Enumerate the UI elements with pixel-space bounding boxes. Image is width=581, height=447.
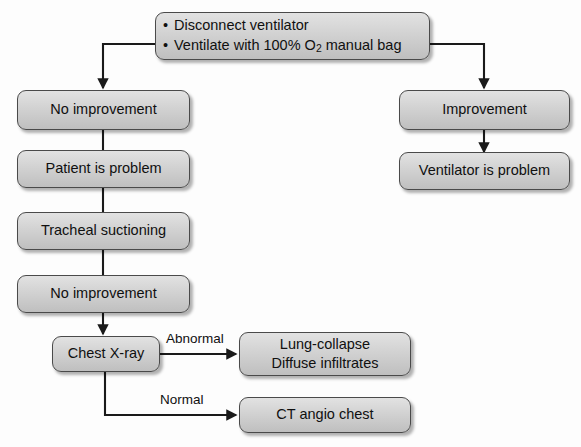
lung-collapse-line-2: Diffuse infiltrates: [272, 354, 379, 373]
improvement-node[interactable]: Improvement: [399, 90, 570, 130]
ventilator-is-problem-node[interactable]: Ventilator is problem: [399, 152, 570, 190]
lung-collapse-line-1: Lung-collapse: [272, 335, 379, 354]
flowchart-canvas: Disconnect ventilator Ventilate with 100…: [0, 0, 581, 447]
edge-start-to-no-improvement-1: [103, 44, 155, 88]
bullet-ventilate-100-o2-manual-bag: Ventilate with 100% O2 manual bag: [174, 36, 402, 56]
ventilator-is-problem-label: Ventilator is problem: [419, 161, 550, 180]
tracheal-suctioning-label: Tracheal suctioning: [41, 221, 166, 240]
patient-is-problem-node[interactable]: Patient is problem: [17, 150, 190, 188]
edge-label-normal: Normal: [160, 392, 204, 407]
ct-angio-chest-node[interactable]: CT angio chest: [239, 397, 411, 433]
patient-is-problem-label: Patient is problem: [45, 159, 161, 178]
no-improvement-label-2: No improvement: [50, 284, 156, 303]
disconnect-ventilate-text: Disconnect ventilator Ventilate with 100…: [156, 16, 410, 55]
ct-angio-chest-label: CT angio chest: [276, 405, 373, 424]
lung-collapse-text: Lung-collapse Diffuse infiltrates: [264, 335, 387, 373]
bullet-ventilate-pre: Ventilate with 100% O: [174, 37, 316, 53]
bullet-disconnect-ventilator: Disconnect ventilator: [174, 16, 402, 35]
edge-start-to-improvement: [430, 44, 484, 88]
disconnect-ventilate-node[interactable]: Disconnect ventilator Ventilate with 100…: [155, 12, 430, 60]
lung-collapse-diffuse-infiltrates-node[interactable]: Lung-collapse Diffuse infiltrates: [239, 332, 411, 376]
no-improvement-node-2[interactable]: No improvement: [17, 275, 190, 313]
no-improvement-node-1[interactable]: No improvement: [17, 90, 190, 130]
bullet-ventilate-post: manual bag: [322, 37, 402, 53]
no-improvement-label-1: No improvement: [50, 100, 156, 119]
improvement-label: Improvement: [442, 100, 527, 119]
chest-xray-node[interactable]: Chest X-ray: [52, 336, 160, 372]
tracheal-suctioning-node[interactable]: Tracheal suctioning: [17, 212, 190, 250]
edge-label-abnormal: Abnormal: [166, 331, 224, 346]
chest-xray-label: Chest X-ray: [68, 344, 145, 363]
